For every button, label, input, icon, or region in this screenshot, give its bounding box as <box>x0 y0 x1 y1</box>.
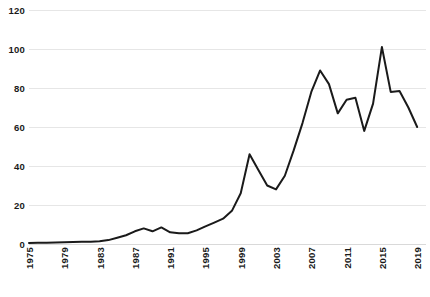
x-axis: 1975197919831987199119951999200320072011… <box>29 247 426 293</box>
x-tick-label-1975: 1975 <box>24 247 35 269</box>
gridline-y-0 <box>29 244 426 245</box>
x-tick-label-1995: 1995 <box>200 247 211 269</box>
x-tick-label-1983: 1983 <box>95 247 106 269</box>
x-tick-label-1979: 1979 <box>59 247 70 269</box>
plot-area <box>29 10 426 244</box>
y-tick-label-100: 100 <box>9 44 25 55</box>
series-line-group <box>29 10 426 244</box>
x-tick-label-2019: 2019 <box>412 247 423 269</box>
y-tick-label-60: 60 <box>14 122 25 133</box>
x-tick-label-2007: 2007 <box>306 247 317 269</box>
line-chart: 020406080100120 197519791983198719911995… <box>0 0 430 297</box>
y-axis: 020406080100120 <box>0 10 25 244</box>
y-tick-label-80: 80 <box>14 83 25 94</box>
y-tick-label-20: 20 <box>14 200 25 211</box>
x-tick-label-1999: 1999 <box>236 247 247 269</box>
x-tick-label-2011: 2011 <box>342 247 353 268</box>
y-tick-label-40: 40 <box>14 161 25 172</box>
x-tick-label-2003: 2003 <box>271 247 282 269</box>
series-line-1 <box>29 47 417 243</box>
x-tick-label-1991: 1991 <box>165 247 176 269</box>
y-tick-label-120: 120 <box>9 5 25 16</box>
x-tick-label-1987: 1987 <box>130 247 141 269</box>
x-tick-label-2015: 2015 <box>377 247 388 269</box>
